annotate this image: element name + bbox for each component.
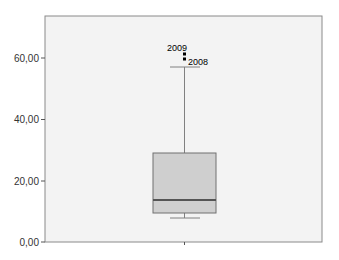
outlier-label-2009: 2009 (167, 43, 187, 53)
y-axis (41, 58, 45, 242)
y-tick-label-20: 20,00 (14, 176, 39, 187)
outlier-label-2008: 2008 (188, 57, 208, 67)
y-tick-label-40: 40,00 (14, 114, 39, 125)
y-tick-label-60: 60,00 (14, 53, 39, 64)
outlier-point-2008 (183, 58, 186, 61)
y-tick-label-0: 0,00 (20, 237, 40, 248)
interquartile-box (153, 153, 216, 213)
boxplot-chart: 60,00 40,00 20,00 0,00 2009 2008 (0, 0, 339, 260)
